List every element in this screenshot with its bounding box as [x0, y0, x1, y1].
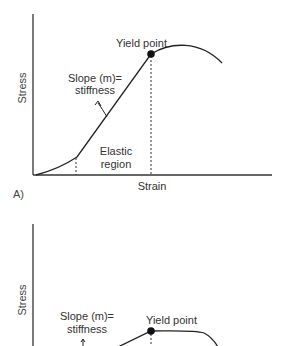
yield-point-label: Yield point	[116, 37, 167, 49]
slope-label-line1: Slope (m)=	[63, 72, 127, 84]
stress-strain-diagram-a: Yield point Slope (m)= stiffness Elastic…	[0, 0, 289, 200]
yield-point-marker	[147, 327, 155, 335]
slope-arrow-icon	[98, 103, 107, 117]
x-axis-label: Strain	[130, 180, 174, 192]
y-axis-label: Stress	[16, 280, 28, 320]
elastic-label-line1: Elastic	[96, 145, 136, 157]
slope-label-line2: stiffness	[55, 323, 119, 335]
slope-label-line1: Slope (m)=	[55, 310, 119, 322]
yield-point-label: Yield point	[146, 314, 197, 326]
stress-strain-diagram-b: Yield point Slope (m)= stiffness Stress	[0, 210, 289, 346]
stress-strain-curve	[118, 331, 218, 346]
elastic-label-line2: region	[96, 158, 136, 170]
diagram-a-graphics	[0, 0, 289, 200]
slope-label-line2: stiffness	[63, 84, 127, 96]
panel-label-a: A)	[13, 188, 24, 200]
yield-point-marker	[147, 50, 155, 58]
y-axis-label: Stress	[16, 68, 28, 108]
diagram-b-graphics	[0, 210, 289, 346]
